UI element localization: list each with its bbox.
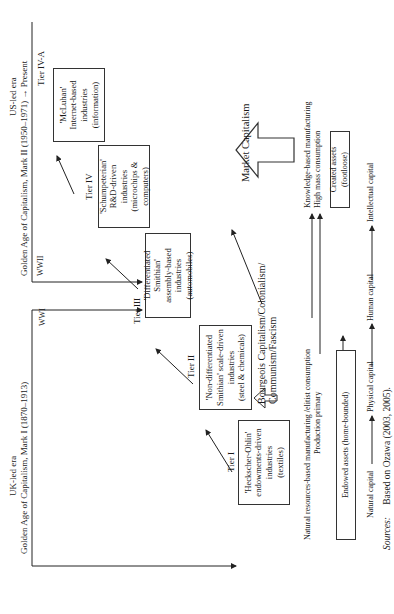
- capital-human: Human capital: [366, 274, 375, 321]
- endowed-assets-box: Endowed assets (home-bounded): [336, 350, 356, 540]
- rotated-figure: UK-led era Golden Age of Capitalism, Mar…: [0, 0, 394, 614]
- tier-iva-line: industries: [79, 88, 90, 121]
- uk-era-label: UK-led era: [8, 456, 18, 496]
- tier-iva-box: 'McLuhan' Internet-based industries (inf…: [53, 68, 105, 142]
- tier-iv-line: R&D-driven: [108, 165, 119, 208]
- tier-iii-line: assembly-based: [163, 248, 174, 302]
- tier-i-line: endowments-driven: [253, 428, 264, 496]
- capital-intellectual: Intellectual capital: [366, 163, 375, 222]
- capital-physical: Physical capital: [366, 362, 375, 412]
- source-text: Based on Ozawa (2003, 2005).: [382, 387, 392, 505]
- tier-i-line: (textiles): [275, 447, 286, 478]
- created-assets-label: Created assets (footloose): [329, 132, 350, 207]
- tier-iva-label: Tier IV-A: [36, 51, 46, 86]
- tier-iii-line: (automobiles): [184, 252, 195, 300]
- tier-iv-box: 'Schumpeterian' R&D-driven industries (m…: [98, 145, 150, 228]
- tier-iv-label: Tier IV: [84, 174, 94, 200]
- us-era-label: US-led era: [8, 77, 18, 116]
- source-note: Sources: Based on Ozawa (2003, 2005).: [382, 387, 392, 550]
- tier-ii-line: (steel & chemicals): [236, 334, 247, 401]
- uk-era-period: Golden Age of Capitalism, Mark I (1870–1…: [19, 382, 29, 554]
- bourgeois-line: Bourgeois Capitalism/Colonialism/: [256, 263, 267, 404]
- tier-ii-line: 'Non-differentiated: [204, 335, 215, 400]
- market-capitalism-label: Market Capitalism: [240, 104, 251, 182]
- tier-iva-line: 'McLuhan': [58, 87, 69, 124]
- tier-i-line: 'Heckscher-Ohlin': [243, 432, 254, 494]
- tier-ii-box: 'Non-differentiated Smithian' scale-driv…: [199, 325, 252, 410]
- natural-production-label: Natural resources-based manufacturing /e…: [303, 349, 312, 540]
- endowed-assets-label: Endowed assets (home-bounded): [341, 392, 352, 498]
- created-assets-box: Created assets (footloose): [330, 131, 350, 208]
- us-era-period: Golden Age of Capitalism, Mark II (1950–…: [19, 61, 29, 276]
- tier-iva-line: (information): [90, 82, 101, 128]
- tier-ii-line: industries: [226, 351, 237, 384]
- production-primary-label: Production primary: [313, 392, 322, 454]
- tier-iv-line: computers): [140, 167, 151, 206]
- tier-ii-line: Smithian' scale-driven: [215, 329, 226, 406]
- wwi-marker: WWI: [38, 308, 47, 326]
- wwii-marker: WWII: [36, 256, 45, 276]
- tier-iii-box: 'Differentiated Smithian' assembly-based…: [145, 233, 191, 318]
- mass-consumption-label: High mass consumption: [313, 131, 322, 208]
- tier-i-box: 'Heckscher-Ohlin' endowments-driven indu…: [238, 420, 290, 505]
- tier-iv-line: industries: [119, 170, 130, 203]
- tier-iv-line: (microchips &: [129, 162, 140, 212]
- tier-ii-label: Tier II: [186, 355, 196, 378]
- bourgeois-capitalism-label: Bourgeois Capitalism/Colonialism/ Commun…: [256, 263, 278, 404]
- tier-iii-line: 'Differentiated Smithian': [142, 234, 163, 317]
- tier-iii-line: industries: [173, 259, 184, 292]
- source-label: Sources:: [382, 517, 392, 550]
- bourgeois-line: Communism/Fascism: [267, 263, 278, 404]
- tier-i-label: Tier I: [226, 452, 236, 472]
- tier-iva-line: Internet-based: [68, 80, 79, 129]
- tier-i-line: industries: [264, 446, 275, 479]
- tier-iv-line: 'Schumpeterian': [98, 159, 109, 214]
- knowledge-production-label: Knowledge-based manufacturing: [303, 102, 312, 208]
- capital-natural: Natural capital: [366, 471, 375, 518]
- tier-iii-label: Tier III: [132, 298, 142, 324]
